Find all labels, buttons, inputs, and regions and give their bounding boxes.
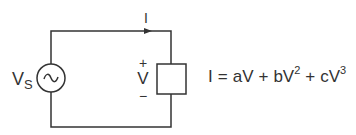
top-wire [51,31,171,64]
circuit-wires [51,31,171,127]
circuit-diagram: I VS + V − I=aV+bV2+cV3 [0,0,356,135]
minus-sign: − [139,88,147,104]
current-arrow-icon [144,28,152,34]
nonlinear-device [157,64,186,94]
current-label: I [144,10,148,26]
voltage-label: V [137,69,149,88]
equation: I=aV+bV2+cV3 [208,64,346,86]
ac-source [37,64,65,92]
source-label: VS [12,69,33,92]
bottom-wire [51,92,171,127]
